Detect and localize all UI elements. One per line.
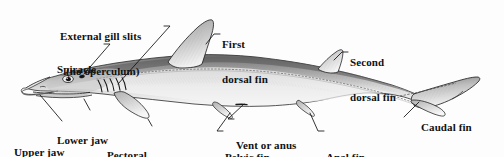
leader-pectoral-fin [148,119,152,126]
second-dorsal-fin-texture [321,52,339,71]
label-first-dorsal-fin-line1: First [222,39,268,51]
label-spiracle-line1: Spiracle [57,64,96,76]
label-lower-jaw-line1: Lower jaw [57,135,108,147]
label-first-dorsal-fin-line2: dorsal fin [222,74,268,86]
label-pelvic-fin: Pelvic fin [225,129,270,157]
label-lower-jaw: Lower jaw [57,112,108,157]
label-pelvic-fin-line1: Pelvic fin [225,152,270,157]
first-dorsal-fin-texture [172,28,204,65]
leader-caudal-fin [404,102,419,117]
label-spiracle: Spiracle [57,41,96,99]
label-anal-fin-line1: Anal fin [326,152,365,157]
label-second-dorsal-fin-line1: Second [350,57,396,69]
shark-anatomy-figure: External gill slits (no operculum) Spira… [0,0,504,157]
label-pectoral-fin-line1: Pectoral [107,150,147,157]
label-caudal-fin-line1: Caudal fin [421,122,487,134]
label-first-dorsal-fin: First dorsal fin [222,16,268,109]
label-second-dorsal-fin: Second dorsal fin [350,34,396,127]
label-second-dorsal-fin-line2: dorsal fin [350,92,396,104]
label-caudal-fin: Caudal fin (heterocercal) [421,99,487,157]
label-anal-fin: Anal fin [326,129,365,157]
label-pectoral-fin: Pectoral fin [107,127,147,157]
